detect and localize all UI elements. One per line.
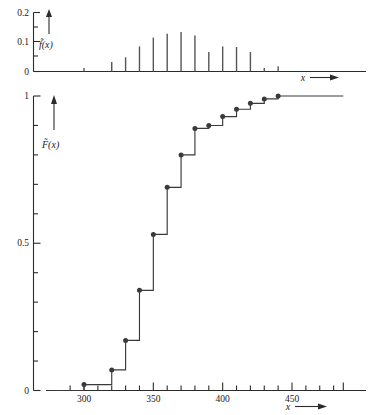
cdf-ytick-label-0_5: 0.5 [17,238,29,248]
cdf-x-axis-title: x [285,401,291,412]
cdf-data-point [248,101,253,106]
cdf-data-point [151,232,156,237]
cdf-data-point [262,96,267,101]
pmf-spike-group [84,32,278,72]
cdf-xtick-label: 300 [77,394,92,404]
cdf-data-point [192,126,197,131]
cdf-data-point [82,382,87,387]
cdf-data-point [165,185,170,190]
cdf-xtick-label: 400 [216,394,231,404]
pmf-chart: 0.2 0.1 0 f̃(x) x [17,8,366,83]
cdf-ytick-label-1: 1 [24,91,29,101]
cdf-data-point [220,114,225,119]
cdf-data-point [137,288,142,293]
cdf-xtick-label: 350 [146,394,161,404]
cdf-step-curve [49,96,343,391]
statistics-figure: 0.2 0.1 0 f̃(x) x [0,0,373,415]
cdf-y-arrow-icon [51,95,57,130]
cdf-y-ticks [34,96,41,391]
pmf-y-arrow-icon [46,9,52,34]
cdf-ytick-label-0: 0 [24,386,29,396]
cdf-data-points [82,94,281,388]
pmf-x-arrow-icon [310,75,339,81]
pmf-x-axis-title: x [300,72,306,83]
cdf-data-point [276,94,281,99]
cdf-chart: 1 0.5 0 F̃(x) 300350400450 x [17,91,366,412]
cdf-data-point [206,123,211,128]
figure-canvas: 0.2 0.1 0 f̃(x) x [0,0,373,415]
cdf-x-tick-labels: 300350400450 [77,394,300,404]
cdf-x-ticks [70,383,343,391]
cdf-y-axis-title: F̃(x) [41,138,60,151]
pmf-ytick-label-2: 0 [24,67,29,77]
cdf-data-point [109,367,114,372]
pmf-y-axis-title: f̃(x) [39,38,54,51]
pmf-ytick-label-0: 0.2 [17,8,29,18]
pmf-ytick-label-1: 0.1 [17,37,29,47]
cdf-x-arrow-icon [295,404,327,410]
cdf-data-point [123,338,128,343]
cdf-data-point [179,152,184,157]
cdf-data-point [234,107,239,112]
